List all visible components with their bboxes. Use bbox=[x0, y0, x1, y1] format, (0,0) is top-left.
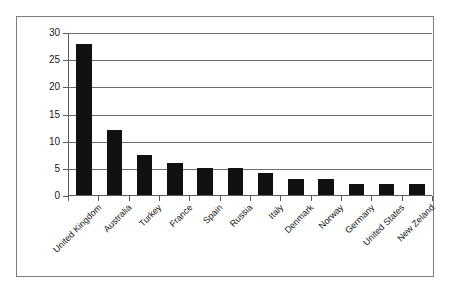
x-axis-category-label: Norway bbox=[318, 203, 346, 231]
x-axis-tick-mark bbox=[432, 196, 433, 201]
bar bbox=[137, 155, 153, 196]
x-axis-tick-mark bbox=[98, 196, 99, 201]
bar-cell bbox=[281, 33, 311, 195]
x-axis-tick-mark bbox=[311, 196, 312, 201]
bar-cell bbox=[160, 33, 190, 195]
y-axis-tick-label: 25 bbox=[49, 55, 60, 65]
bar bbox=[76, 44, 92, 195]
y-axis-tick-mark bbox=[63, 87, 68, 88]
x-axis-category-label: Spain bbox=[202, 203, 225, 226]
x-axis-tick-mark bbox=[280, 196, 281, 201]
x-axis-labels-group: United KingdomAustraliaTurkeyFranceSpain… bbox=[68, 203, 432, 291]
bars-group bbox=[69, 33, 432, 195]
x-axis-tick-mark bbox=[220, 196, 221, 201]
y-axis-tick-label: 5 bbox=[54, 164, 60, 174]
x-axis-category-label: Australia bbox=[102, 203, 133, 234]
bar-cell bbox=[99, 33, 129, 195]
bar bbox=[197, 168, 213, 195]
x-axis-category-label: France bbox=[168, 203, 194, 229]
figure-frame: 051015202530 United KingdomAustraliaTurk… bbox=[16, 16, 434, 277]
y-axis-tick-mark bbox=[63, 60, 68, 61]
bar-cell bbox=[402, 33, 432, 195]
y-axis-tick-label: 20 bbox=[49, 82, 60, 92]
bar-cell bbox=[220, 33, 250, 195]
x-axis-tick-mark bbox=[250, 196, 251, 201]
bar-cell bbox=[251, 33, 281, 195]
bar bbox=[228, 168, 244, 195]
x-axis-category-label: Italy bbox=[267, 203, 285, 221]
y-axis-tick-label: 10 bbox=[49, 137, 60, 147]
bar-cell bbox=[69, 33, 99, 195]
bar-cell bbox=[311, 33, 341, 195]
bar-cell bbox=[341, 33, 371, 195]
x-axis-tick-mark bbox=[189, 196, 190, 201]
y-axis-tick-label: 0 bbox=[54, 191, 60, 201]
bar bbox=[318, 179, 334, 195]
bar bbox=[379, 184, 395, 195]
bar bbox=[258, 173, 274, 195]
plot-area: 051015202530 bbox=[68, 33, 432, 196]
bar bbox=[107, 130, 123, 195]
y-axis-tick-label: 15 bbox=[49, 110, 60, 120]
x-axis-category-label: United Kingdom bbox=[52, 203, 104, 255]
bar bbox=[409, 184, 425, 195]
x-axis-category-label: Russia bbox=[229, 203, 255, 229]
y-axis-tick-mark bbox=[63, 169, 68, 170]
x-axis-tick-mark bbox=[129, 196, 130, 201]
bar-cell bbox=[130, 33, 160, 195]
x-axis-category-label: Turkey bbox=[138, 203, 164, 229]
x-axis-ticks-group bbox=[68, 196, 432, 201]
bar-cell bbox=[372, 33, 402, 195]
bar bbox=[167, 163, 183, 195]
bar-cell bbox=[190, 33, 220, 195]
bar bbox=[288, 179, 304, 195]
x-axis-tick-mark bbox=[402, 196, 403, 201]
x-axis-tick-mark bbox=[341, 196, 342, 201]
x-axis-tick-mark bbox=[68, 196, 69, 201]
x-axis-tick-mark bbox=[371, 196, 372, 201]
x-axis-tick-mark bbox=[159, 196, 160, 201]
y-axis-tick-mark bbox=[63, 33, 68, 34]
bar bbox=[349, 184, 365, 195]
y-axis-tick-mark bbox=[63, 142, 68, 143]
y-axis-tick-label: 30 bbox=[49, 28, 60, 38]
y-axis-tick-mark bbox=[63, 115, 68, 116]
x-axis-category-label: Denmark bbox=[283, 203, 315, 235]
chart-screenshot: 051015202530 United KingdomAustraliaTurk… bbox=[0, 0, 451, 293]
